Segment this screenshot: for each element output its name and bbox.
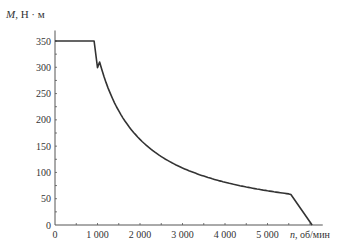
torque-curve <box>55 41 312 225</box>
x-tick-label: 4 000 <box>214 229 237 240</box>
y-tick-label: 300 <box>36 62 51 73</box>
y-tick-label: 50 <box>41 193 51 204</box>
y-tick-label: 100 <box>36 167 51 178</box>
x-tick-label: 2 000 <box>129 229 152 240</box>
x-tick-label: 1 000 <box>86 229 109 240</box>
axes: 01 0002 0003 0004 0005 00005010015020025… <box>36 30 323 240</box>
x-tick-label: 0 <box>53 229 58 240</box>
x-tick-label: 3 000 <box>171 229 194 240</box>
y-axis-label: M, Н · м <box>5 8 45 20</box>
y-tick-label: 200 <box>36 114 51 125</box>
axis-labels: M, Н · м n, об/мин <box>5 8 331 240</box>
y-tick-label: 350 <box>36 36 51 47</box>
y-tick-label: 250 <box>36 88 51 99</box>
y-tick-label: 150 <box>36 141 51 152</box>
x-tick-label: 5 000 <box>256 229 279 240</box>
series-line <box>55 41 312 225</box>
torque-speed-chart: 01 0002 0003 0004 0005 00005010015020025… <box>0 0 348 248</box>
x-axis-label: n, об/мин <box>290 229 331 240</box>
y-tick-label: 0 <box>46 220 51 231</box>
